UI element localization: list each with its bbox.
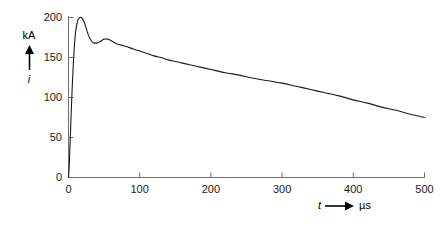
x-axis-symbol-label: t: [318, 200, 321, 211]
y-axis-tick-label: 100: [30, 92, 62, 103]
y-axis-tick-label: 0: [30, 172, 62, 183]
x-axis-tick-label: 400: [333, 184, 373, 195]
x-axis-unit-label: µs: [359, 200, 371, 211]
chart-figure: kA i t µs 0501001502000100200300400500: [0, 0, 444, 226]
x-axis-tick-label: 200: [191, 184, 231, 195]
x-axis-tick-label: 300: [262, 184, 302, 195]
y-axis-tick-label: 200: [30, 12, 62, 23]
y-axis-unit-label: kA: [12, 30, 46, 41]
x-axis-tick-label: 0: [49, 184, 89, 195]
x-axis-title: t µs: [318, 200, 371, 211]
x-axis-tick-label: 100: [120, 184, 160, 195]
x-axis-tick-label: 500: [405, 184, 444, 195]
x-axis-ticks: [69, 173, 425, 178]
data-series-line: [69, 17, 425, 177]
right-arrow-icon: [325, 201, 355, 211]
y-axis-symbol-label: i: [12, 74, 46, 85]
y-axis-tick-label: 150: [30, 52, 62, 63]
axes: [68, 16, 425, 178]
y-axis-tick-label: 50: [30, 132, 62, 143]
